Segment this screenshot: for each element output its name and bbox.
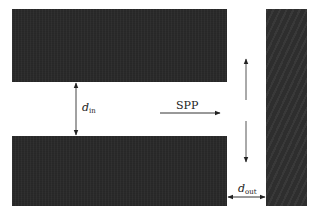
arrows-layer <box>0 0 315 216</box>
d-out-subscript: out <box>245 188 257 196</box>
d-in-base: d <box>82 101 89 114</box>
d-out-base: d <box>238 182 245 195</box>
d-in-subscript: in <box>89 107 96 115</box>
spp-label: SPP <box>176 99 198 112</box>
d-in-label: din <box>82 101 96 115</box>
d-out-label: dout <box>238 182 257 196</box>
